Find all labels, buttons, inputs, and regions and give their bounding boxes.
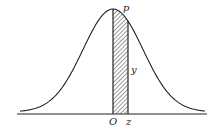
shaded-region [113,9,128,114]
label-p: p [123,2,130,13]
label-y: y [130,64,137,75]
label-z: z [125,116,132,127]
normal-curve-diagram: p y O z [0,0,218,131]
label-origin: O [109,116,117,127]
